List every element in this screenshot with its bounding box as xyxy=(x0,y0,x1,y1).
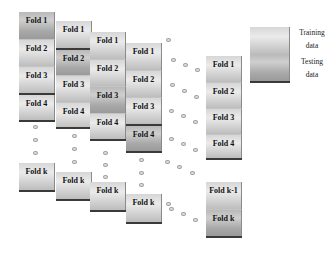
fold-4: Fold 4 xyxy=(19,95,55,120)
divider xyxy=(19,190,55,192)
ellipsis-dot xyxy=(139,158,144,162)
fold-label: Fold 4 xyxy=(56,103,91,116)
ellipsis-dot xyxy=(166,202,171,206)
fold-label: Fold 2 xyxy=(56,50,91,63)
fold-label: Fold 1 xyxy=(90,32,125,45)
divider xyxy=(90,139,126,141)
fold-4: Fold 4 xyxy=(90,113,126,139)
fold-3: Fold 3 xyxy=(206,108,242,134)
ellipsis-dot xyxy=(181,212,186,216)
fold-2: Fold 2 xyxy=(19,39,55,66)
ellipsis-dot xyxy=(169,137,174,141)
fold-label: Fold 3 xyxy=(126,98,161,111)
fold-4: Fold 4 xyxy=(56,102,92,129)
ellipsis-dot xyxy=(169,207,174,211)
fold-2: Fold 2 xyxy=(90,59,126,86)
ellipsis-dot xyxy=(103,175,108,179)
legend-training-line1: Training xyxy=(292,28,332,37)
legend-training-label: Training data xyxy=(292,28,332,50)
legend-testing-line1: Testing xyxy=(292,57,332,66)
fold-label: Fold k xyxy=(19,163,54,176)
ellipsis-dot xyxy=(181,114,186,118)
divider xyxy=(90,210,126,212)
fold-2: Fold 2 xyxy=(126,70,162,97)
legend-testing-line2: data xyxy=(292,70,332,79)
legend-testing-swatch xyxy=(250,54,290,81)
fold-label: Fold 1 xyxy=(56,21,91,34)
fold-label: Fold 4 xyxy=(19,95,54,108)
divider xyxy=(126,151,162,153)
ellipsis-dot xyxy=(183,63,188,67)
fold-label: Fold 2 xyxy=(206,83,241,96)
ellipsis-dot xyxy=(33,151,38,155)
fold-1: Fold 1 xyxy=(56,21,92,48)
ellipsis-dot xyxy=(103,163,108,167)
ellipsis-dot xyxy=(193,120,198,124)
ellipsis-dot xyxy=(170,83,175,87)
fold-label: Fold 3 xyxy=(206,109,241,122)
fold-label: Fold 1 xyxy=(19,12,54,25)
divider xyxy=(206,158,242,160)
fold-label: Fold k xyxy=(56,172,91,185)
fold-label: Fold 3 xyxy=(56,76,91,89)
ellipsis-dot xyxy=(193,148,198,152)
fold-4: Fold 4 xyxy=(206,134,242,158)
fold-label: Fold k xyxy=(206,210,241,223)
fold-3: Fold 3 xyxy=(126,97,162,124)
fold-label: Fold 1 xyxy=(206,56,241,69)
ellipsis-dot xyxy=(139,183,144,187)
ellipsis-dot xyxy=(193,218,198,222)
divider xyxy=(206,236,242,238)
legend-testing-label: Testing data xyxy=(292,57,332,79)
fold-2: Fold 2 xyxy=(206,82,242,108)
fold-3: Fold 3 xyxy=(19,66,55,93)
ellipsis-dot xyxy=(33,138,38,142)
fold-label: Fold 2 xyxy=(19,40,54,53)
fold-label: Fold 3 xyxy=(90,87,125,100)
ellipsis-dot xyxy=(190,171,195,175)
legend-swatch xyxy=(250,27,290,81)
ellipsis-dot xyxy=(166,38,171,42)
ellipsis-dot xyxy=(165,160,170,164)
ellipsis-dot xyxy=(195,68,200,72)
fold-label: Fold 2 xyxy=(126,71,161,84)
divider xyxy=(56,127,92,129)
fold-4-test: Fold 4 xyxy=(126,126,162,151)
fold-k: Fold k xyxy=(19,163,55,190)
fold-label: Fold 3 xyxy=(19,67,54,80)
fold-label: Fold k xyxy=(126,194,161,207)
ellipsis-dot xyxy=(194,95,199,99)
fold-k-minus-1: Fold k-1 xyxy=(206,182,242,209)
fold-3-test: Fold 3 xyxy=(90,86,126,113)
ellipsis-dot xyxy=(72,147,77,151)
fold-1: Fold 1 xyxy=(126,43,162,70)
fold-1: Fold 1 xyxy=(90,32,126,59)
divider xyxy=(126,222,162,224)
fold-k-test: Fold k xyxy=(206,209,242,236)
ellipsis-dot xyxy=(33,125,38,129)
fold-label: Fold 4 xyxy=(206,135,241,148)
fold-2-test: Fold 2 xyxy=(56,50,92,75)
fold-label: Fold 2 xyxy=(90,60,125,73)
ellipsis-dot xyxy=(169,109,174,113)
divider xyxy=(250,81,290,83)
ellipsis-dot xyxy=(171,58,176,62)
fold-k: Fold k xyxy=(56,172,92,199)
ellipsis-dot xyxy=(177,165,182,169)
ellipsis-dot xyxy=(103,151,108,155)
fold-label: Fold k-1 xyxy=(206,182,241,195)
fold-label: Fold 4 xyxy=(90,114,125,127)
fold-3: Fold 3 xyxy=(56,75,92,102)
ellipsis-dot xyxy=(182,89,187,93)
fold-1: Fold 1 xyxy=(206,56,242,82)
divider xyxy=(19,120,55,122)
fold-label: Fold 4 xyxy=(126,126,161,139)
legend-training-swatch xyxy=(250,27,290,54)
ellipsis-dot xyxy=(139,171,144,175)
fold-label: Fold k xyxy=(90,182,125,195)
divider xyxy=(56,199,92,201)
ellipsis-dot xyxy=(72,160,77,164)
fold-k: Fold k xyxy=(90,182,126,210)
legend-training-line2: data xyxy=(292,41,332,50)
ellipsis-dot xyxy=(72,134,77,138)
